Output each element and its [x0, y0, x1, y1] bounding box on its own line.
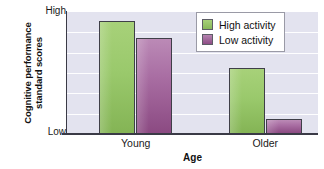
- legend-item-high-activity: High activity: [202, 17, 276, 32]
- y-axis-tick-labels: High Low: [18, 0, 66, 169]
- bar-young-low-activity: [136, 38, 172, 134]
- legend-label-high-activity: High activity: [219, 19, 276, 31]
- legend-item-low-activity: Low activity: [202, 32, 276, 47]
- x-axis-line: [62, 133, 318, 134]
- x-axis-tick-young: Young: [96, 137, 176, 149]
- high-activity-swatch-icon: [202, 19, 213, 30]
- chart-legend: High activity Low activity: [196, 12, 285, 52]
- bar-older-low-activity: [266, 119, 302, 134]
- low-activity-swatch-icon: [202, 34, 213, 45]
- y-axis-max-label: High: [20, 5, 66, 16]
- x-axis-title: Age: [67, 152, 318, 163]
- y-axis-min-label: Low: [20, 126, 66, 137]
- y-axis-line: [66, 11, 67, 135]
- bar-older-high-activity: [229, 68, 265, 134]
- bar-young-high-activity: [99, 21, 135, 134]
- x-axis-tick-older: Older: [225, 137, 305, 149]
- bar-chart-figure: Cognitive performance standard scores Hi…: [0, 0, 324, 169]
- legend-label-low-activity: Low activity: [219, 34, 273, 46]
